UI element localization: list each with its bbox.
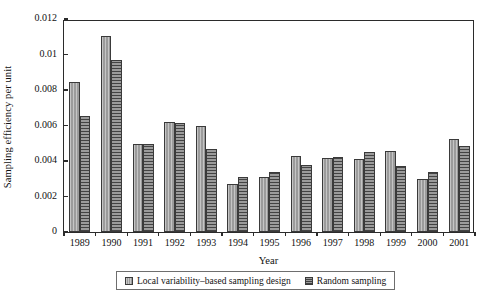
- legend-swatch-icon-series-0: [125, 277, 133, 285]
- y-axis-tick-label: 0.008: [35, 83, 58, 94]
- x-axis-tick-mark: [63, 232, 64, 236]
- x-axis-tick-mark: [443, 232, 444, 236]
- bar-series-1: [269, 172, 280, 232]
- bar-series-1: [459, 146, 470, 232]
- bar-group: [412, 172, 444, 232]
- bar-series-0: [385, 151, 396, 232]
- bar-series-0: [196, 126, 207, 232]
- bar-series-1: [238, 177, 249, 232]
- x-axis-tick-mark: [95, 232, 96, 236]
- bar-series-1: [428, 172, 439, 232]
- bar-series-0: [164, 122, 175, 232]
- x-axis-tick-mark: [411, 232, 412, 236]
- y-axis-tick-label: 0.01: [40, 48, 58, 59]
- bar-group: [317, 157, 349, 232]
- x-axis-tick-mark: [190, 232, 191, 236]
- bar-group: [64, 82, 96, 232]
- bar-series-0: [69, 82, 80, 232]
- bar-chart: Sampling efficiency per unit 00.0020.004…: [0, 0, 490, 304]
- bar-series-1: [364, 152, 375, 232]
- bar-series-1: [396, 166, 407, 232]
- y-axis-tick-label: 0: [52, 225, 57, 236]
- bar-series-0: [322, 158, 333, 232]
- x-axis-tick-mark: [348, 232, 349, 236]
- x-axis-tick-mark: [474, 232, 475, 236]
- y-axis-tick-mark: [64, 18, 68, 19]
- bar-series-1: [143, 144, 154, 232]
- x-axis-tick-mark: [285, 232, 286, 236]
- plot-area: 00.0020.0040.0060.0080.010.0121989199019…: [63, 20, 474, 233]
- bar-series-0: [291, 156, 302, 232]
- bar-group: [222, 177, 254, 232]
- bar-group: [443, 139, 475, 232]
- bar-series-0: [259, 177, 270, 232]
- y-axis-tick-label: 0.012: [35, 12, 58, 23]
- x-axis-tick-label: 2001: [437, 237, 481, 248]
- legend-label-series-1: Random sampling: [317, 276, 386, 286]
- x-axis-tick-mark: [380, 232, 381, 236]
- bar-group: [254, 172, 286, 232]
- x-axis-tick-mark: [221, 232, 222, 236]
- bar-series-0: [101, 36, 112, 232]
- bar-series-1: [80, 116, 91, 232]
- bar-series-0: [354, 159, 365, 232]
- legend-swatch-icon-series-1: [305, 277, 313, 285]
- x-axis-tick-mark: [316, 232, 317, 236]
- bar-series-1: [333, 157, 344, 232]
- x-axis-tick-mark: [253, 232, 254, 236]
- bar-series-0: [133, 144, 144, 232]
- y-axis-tick-mark: [64, 54, 68, 55]
- chart-legend: Local variability–based sampling design …: [116, 271, 395, 290]
- bar-series-0: [227, 184, 238, 232]
- legend-item-series-1: Random sampling: [305, 276, 386, 286]
- bar-series-1: [175, 123, 186, 232]
- bar-group: [380, 151, 412, 232]
- legend-label-series-0: Local variability–based sampling design: [137, 276, 291, 286]
- y-axis-tick-label: 0.002: [35, 190, 58, 201]
- x-axis-tick-mark: [158, 232, 159, 236]
- bar-group: [285, 156, 317, 232]
- legend-item-series-0: Local variability–based sampling design: [125, 276, 291, 286]
- bar-series-1: [206, 149, 217, 232]
- y-axis-tick-label: 0.006: [35, 119, 58, 130]
- plot-inner: 00.0020.0040.0060.0080.010.0121989199019…: [64, 21, 473, 232]
- y-axis-title: Sampling efficiency per unit: [2, 22, 16, 232]
- x-axis-tick-mark: [127, 232, 128, 236]
- bar-series-1: [301, 165, 312, 232]
- bar-group: [349, 152, 381, 232]
- bar-series-1: [111, 60, 122, 232]
- bar-group: [127, 144, 159, 232]
- bar-group: [96, 36, 128, 232]
- bar-series-0: [417, 179, 428, 232]
- bar-group: [190, 126, 222, 232]
- bar-group: [159, 122, 191, 232]
- y-axis-tick-label: 0.004: [35, 154, 58, 165]
- x-axis-title: Year: [63, 255, 474, 266]
- bar-series-0: [449, 139, 460, 232]
